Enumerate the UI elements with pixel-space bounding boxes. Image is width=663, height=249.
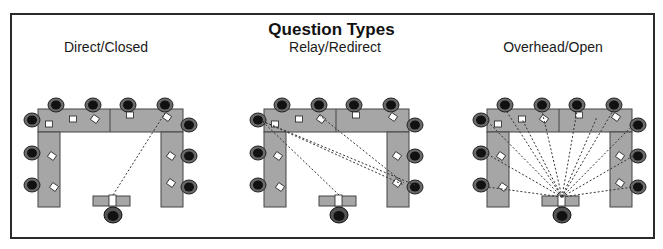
panel-relay-redirect xyxy=(250,98,423,223)
classroom-diagrams xyxy=(0,0,663,249)
panel-overhead-open xyxy=(473,98,646,223)
panel-direct-closed xyxy=(24,98,197,223)
